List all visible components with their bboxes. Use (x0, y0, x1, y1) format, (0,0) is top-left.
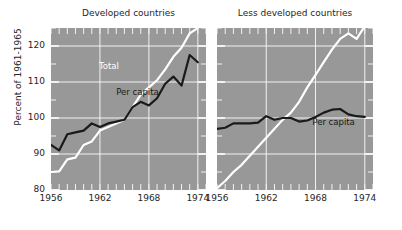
x-tick-label-1962-p1: 1962 (246, 193, 286, 203)
chart-figure: Developed countries Less developed count… (0, 0, 402, 230)
series-annotation-per-capita: Per capita (312, 117, 354, 127)
y-tick-label-110: 110 (21, 76, 45, 86)
plot-svg-1: Per capita (217, 28, 373, 190)
x-tick-label-1962-p0: 1962 (80, 193, 120, 203)
series-line-total (51, 28, 198, 172)
panel-title-less-developed: Less developed countries (217, 8, 373, 18)
plot-svg-0: TotalPer capita (51, 28, 206, 190)
series-annotation-total: Total (98, 61, 119, 71)
x-tick-label-1956-p0: 1956 (31, 193, 71, 203)
y-tick-label-90: 90 (21, 148, 45, 158)
y-tick-label-100: 100 (21, 112, 45, 122)
panel-title-developed: Developed countries (51, 8, 206, 18)
series-line-per-capita (51, 55, 198, 150)
series-line-total (217, 28, 365, 188)
y-tick-label-120: 120 (21, 40, 45, 50)
x-tick-label-1968-p0: 1968 (129, 193, 169, 203)
plot-area-less-developed: Per capita (217, 28, 373, 190)
series-annotation-per-capita: Per capita (116, 87, 158, 97)
x-tick-label-1956-p1: 1956 (197, 193, 237, 203)
x-tick-label-1968-p1: 1968 (296, 193, 336, 203)
plot-area-developed: TotalPer capita (51, 28, 206, 190)
x-tick-label-1974-p1: 1974 (345, 193, 385, 203)
